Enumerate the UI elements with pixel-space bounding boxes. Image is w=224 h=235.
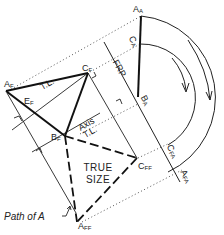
label-c-ff: CFF [138, 162, 152, 171]
rotation-arrows [172, 40, 212, 100]
true-size-line2: SIZE [78, 174, 118, 186]
label-e-f: EF [24, 97, 34, 106]
label-true-size: TRUE SIZE [78, 162, 118, 186]
path-of-a-arrow [62, 206, 71, 216]
edge-view-line [138, 16, 141, 97]
label-b-f: BF [51, 133, 61, 142]
label-a-a: AA [133, 5, 143, 14]
projection-lines [8, 16, 182, 222]
label-a-f: AF [4, 80, 14, 89]
label-a-ff: AFF [78, 222, 91, 231]
label-c-f: CF [82, 64, 92, 73]
true-size-line1: TRUE [78, 162, 118, 174]
rotation-arcs [140, 16, 215, 172]
diagram-canvas [0, 0, 224, 235]
label-path-of-a: Path of A [4, 212, 45, 222]
